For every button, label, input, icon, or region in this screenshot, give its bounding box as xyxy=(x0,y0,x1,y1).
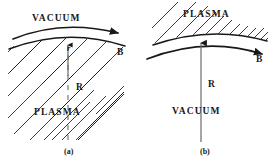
panel-a-radius-label: R xyxy=(76,83,83,93)
panel-a-vacuum-label: VACUUM xyxy=(32,14,81,24)
panel-b-field-line-arc xyxy=(147,46,262,59)
panel-b-caption: (b) xyxy=(200,148,210,156)
panel-b-graphics xyxy=(134,0,278,142)
panel-b-plasma-boundary-curve xyxy=(153,34,267,45)
panel-a-plasma-label: PLASMA xyxy=(34,108,81,118)
panel-b-field-label: B xyxy=(256,55,262,65)
figure-root: VACUUM PLASMA B r R (a) PLASMA VACUUM B … xyxy=(0,0,278,166)
panel-b-vacuum-label: VACUUM xyxy=(172,107,221,117)
panel-a-small-radius-label: r xyxy=(67,45,70,53)
diagram-canvas xyxy=(0,0,278,166)
panel-a-caption: (a) xyxy=(64,148,73,156)
panel-a-field-label: B xyxy=(117,48,123,58)
panel-b-plasma-label: PLASMA xyxy=(183,10,230,20)
panel-b-radius-label: R xyxy=(208,80,215,90)
